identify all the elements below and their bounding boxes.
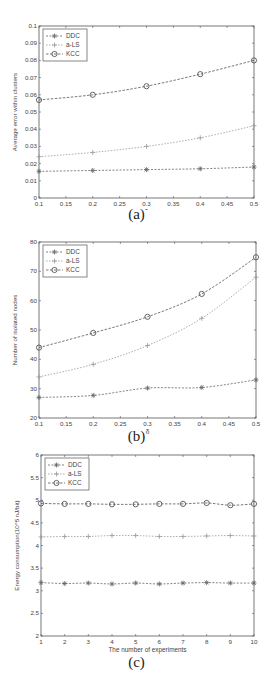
chart-c-plot: 1234567891022.533.544.555.56The number o… xyxy=(0,446,273,656)
y-tick-label: 30 xyxy=(30,385,37,392)
x-tick-label: 3 xyxy=(87,638,91,645)
chart-c: 1234567891022.533.544.555.56The number o… xyxy=(0,446,273,656)
y-tick-label: 0 xyxy=(34,194,38,201)
legend: DDCa-LSKCC xyxy=(43,29,87,61)
y-tick-label: 6 xyxy=(36,451,40,458)
asterisk-marker-icon xyxy=(228,581,233,586)
y-tick-label: 4 xyxy=(36,542,40,549)
y-axis-label: Number of isolated nodes xyxy=(11,295,18,366)
asterisk-marker-icon xyxy=(133,581,138,586)
asterisk-marker-icon xyxy=(54,463,59,468)
caption-c: (c) xyxy=(0,654,273,671)
y-tick-label: 40 xyxy=(30,355,37,362)
caption-b: (b) xyxy=(0,428,273,445)
asterisk-marker-icon xyxy=(37,395,42,400)
chart-b: 0.10.150.20.250.30.350.40.450.5203040506… xyxy=(0,228,273,438)
chart-a: 0.10.150.20.250.30.350.40.450.500.010.02… xyxy=(0,0,273,230)
x-tick-label: 0.45 xyxy=(223,420,236,427)
y-tick-label: 2 xyxy=(36,632,40,639)
x-tick-label: 0.2 xyxy=(89,420,98,427)
legend-label: DDC xyxy=(66,32,80,39)
legend-label: a-LS xyxy=(66,41,80,48)
x-tick-label: 6 xyxy=(158,638,162,645)
legend-label: a-LS xyxy=(66,257,80,264)
y-tick-label: 0.04 xyxy=(25,125,38,132)
y-tick-label: 0.02 xyxy=(25,160,38,167)
x-tick-label: 4 xyxy=(110,638,114,645)
x-tick-label: 8 xyxy=(205,638,209,645)
legend-label: KCC xyxy=(66,266,80,273)
y-tick-label: 3.5 xyxy=(30,564,39,571)
y-tick-label: 80 xyxy=(30,238,37,245)
x-tick-label: 9 xyxy=(229,638,233,645)
asterisk-marker-icon xyxy=(91,393,96,398)
y-tick-label: 2.5 xyxy=(30,609,39,616)
y-tick-label: 0.1 xyxy=(28,22,37,29)
legend: DDCa-LSKCC xyxy=(45,458,89,490)
asterisk-marker-icon xyxy=(62,581,67,586)
y-axis-label: Average error within clusters xyxy=(11,73,18,151)
asterisk-marker-icon xyxy=(37,169,42,174)
x-tick-label: 2 xyxy=(63,638,67,645)
y-axis-label: Energy consumption(10^5 nJ/bit) xyxy=(13,500,20,590)
y-tick-label: 4.5 xyxy=(30,519,39,526)
legend-label: DDC xyxy=(68,461,82,468)
x-tick-label: 0.3 xyxy=(143,420,152,427)
asterisk-marker-icon xyxy=(145,386,150,391)
y-tick-label: 50 xyxy=(30,326,37,333)
x-tick-label: 0.1 xyxy=(35,420,44,427)
caption-a: (a) xyxy=(0,206,273,223)
y-tick-label: 0.01 xyxy=(25,177,38,184)
asterisk-marker-icon xyxy=(198,166,203,171)
y-tick-label: 5.5 xyxy=(30,474,39,481)
asterisk-marker-icon xyxy=(144,167,149,172)
asterisk-marker-icon xyxy=(204,580,209,585)
asterisk-marker-icon xyxy=(110,581,115,586)
y-tick-label: 70 xyxy=(30,267,37,274)
x-tick-label: 5 xyxy=(134,638,138,645)
asterisk-marker-icon xyxy=(52,250,57,255)
y-tick-label: 3 xyxy=(36,587,40,594)
asterisk-marker-icon xyxy=(86,581,91,586)
x-tick-label: 10 xyxy=(251,638,258,645)
x-axis-label: The number of experiments xyxy=(108,646,186,654)
asterisk-marker-icon xyxy=(39,580,44,585)
y-tick-label: 0.09 xyxy=(25,39,38,46)
y-tick-label: 0.08 xyxy=(25,56,38,63)
y-tick-label: 60 xyxy=(30,297,37,304)
asterisk-marker-icon xyxy=(52,34,57,39)
y-tick-label: 0.06 xyxy=(25,91,38,98)
x-tick-label: 0.4 xyxy=(197,420,206,427)
asterisk-marker-icon xyxy=(252,581,257,586)
x-tick-label: 7 xyxy=(181,638,185,645)
x-tick-label: 0.15 xyxy=(60,420,73,427)
x-tick-label: 0.5 xyxy=(252,420,261,427)
asterisk-marker-icon xyxy=(181,581,186,586)
asterisk-marker-icon xyxy=(90,168,95,173)
y-tick-label: 0.05 xyxy=(25,108,38,115)
asterisk-marker-icon xyxy=(199,385,204,390)
asterisk-marker-icon xyxy=(254,377,259,382)
x-tick-label: 0.25 xyxy=(114,420,127,427)
y-tick-label: 0.03 xyxy=(25,142,38,149)
y-tick-label: 0.07 xyxy=(25,74,38,81)
legend-label: a-LS xyxy=(68,470,82,477)
asterisk-marker-icon xyxy=(157,581,162,586)
legend-label: KCC xyxy=(68,479,82,486)
y-tick-label: 20 xyxy=(30,414,37,421)
legend-label: KCC xyxy=(66,50,80,57)
chart-b-plot: 0.10.150.20.250.30.350.40.450.5203040506… xyxy=(0,228,273,438)
x-tick-label: 0.35 xyxy=(169,420,182,427)
legend: DDCa-LSKCC xyxy=(43,245,87,277)
legend-label: DDC xyxy=(66,248,80,255)
x-tick-label: 1 xyxy=(39,638,43,645)
asterisk-marker-icon xyxy=(252,165,257,170)
chart-a-plot: 0.10.150.20.250.30.350.40.450.500.010.02… xyxy=(0,0,273,210)
